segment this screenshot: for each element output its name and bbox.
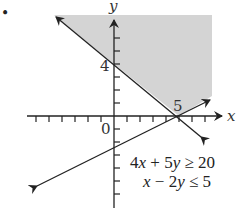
x-intercept-label: 5	[173, 97, 183, 115]
var-x: x	[139, 153, 147, 172]
operator: −	[151, 172, 169, 191]
x-axis-label: x	[227, 107, 236, 125]
operator: +	[146, 153, 164, 172]
coef-b: 5	[164, 153, 173, 172]
problem-marker: •	[1, 5, 9, 21]
coef-b: 2	[169, 172, 178, 191]
rhs: 5	[203, 172, 212, 191]
shaded-solution-region	[54, 15, 212, 116]
x-axis	[27, 116, 222, 122]
inequality-2: x − 2y ≤ 5	[143, 173, 211, 191]
inequality-1: 4x + 5y ≥ 20	[130, 154, 215, 172]
relation: ≤	[185, 172, 203, 191]
origin-label: 0	[101, 120, 111, 138]
relation: ≥	[180, 153, 198, 172]
var-x: x	[143, 172, 151, 191]
rhs: 20	[198, 153, 215, 172]
coef-a: 4	[130, 153, 139, 172]
var-y: y	[177, 172, 185, 191]
y-intercept-label: 4	[100, 57, 110, 75]
y-axis-label: y	[108, 0, 118, 15]
